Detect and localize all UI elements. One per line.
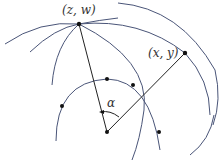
point-center <box>105 130 109 134</box>
segment-center-to-zw <box>79 24 107 132</box>
outer-arc <box>118 3 218 125</box>
arc-down-right <box>79 24 144 160</box>
point-zw <box>77 22 81 26</box>
small-circle-arc <box>56 79 160 150</box>
label-xy: (x, y) <box>148 46 179 60</box>
label-zw: (z, w) <box>62 3 96 17</box>
small-circle-point-1 <box>105 77 109 81</box>
segment-center-to-xy <box>107 53 185 132</box>
small-circle-point-2 <box>131 83 135 87</box>
geometry-diagram: (z, w) (x, y) α <box>0 0 219 161</box>
small-circle-point-3 <box>60 104 64 108</box>
point-xy <box>183 51 187 55</box>
arc-lower-right <box>190 115 214 155</box>
small-circle-point-4 <box>157 130 161 134</box>
arc-left-3 <box>52 24 79 85</box>
label-alpha: α <box>107 96 115 110</box>
